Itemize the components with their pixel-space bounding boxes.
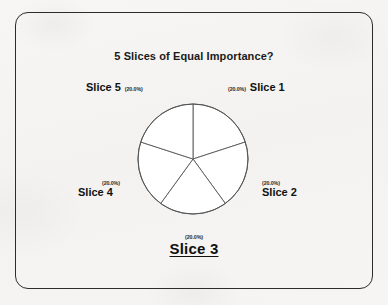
pie-chart-graphic (0, 0, 388, 305)
pie-label-slice-3: (20.0%) Slice 3 (0, 234, 388, 258)
pie-percent-slice-5: (20.0%) (125, 86, 143, 92)
pie-label-slice-2: (20.0%) Slice 2 (262, 180, 297, 198)
pie-name-slice-2: Slice 2 (262, 186, 297, 198)
pie-name-slice-5: Slice 5 (86, 81, 121, 93)
pie-label-slice-4: (20.0%) Slice 4 (78, 180, 120, 198)
pie-label-slice-1: (20.0%) Slice 1 (228, 81, 285, 93)
pie-name-slice-1: Slice 1 (250, 81, 285, 93)
pie-name-slice-4: Slice 4 (78, 186, 120, 198)
pie-label-slice-5: Slice 5 (20.0%) (86, 81, 143, 93)
pie-percent-slice-1: (20.0%) (228, 86, 246, 92)
pie-name-slice-3: Slice 3 (170, 240, 219, 257)
pie-slices (138, 104, 248, 214)
